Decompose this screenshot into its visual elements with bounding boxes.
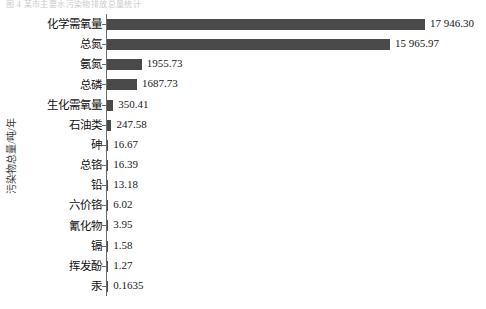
category-label: 氰化物 [10, 218, 102, 234]
axis-tick [102, 205, 106, 206]
axis-tick [102, 185, 106, 186]
axis-tick [102, 225, 106, 226]
bar [107, 59, 142, 70]
axis-tick [102, 145, 106, 146]
bar-chart: 图 4 某市主要水污染物排放总量统计 污染物总量/吨/年 化学需氧量总氮氨氮总磷… [0, 0, 486, 309]
bar-value-label: 247.58 [116, 117, 146, 132]
bar [107, 39, 390, 50]
bar-value-label: 16.39 [113, 157, 138, 172]
axis-tick [102, 44, 106, 45]
bar [107, 281, 108, 292]
bar-value-label: 350.41 [118, 97, 148, 112]
bar-row: 247.58 [106, 115, 486, 137]
category-label: 总铬 [10, 157, 102, 173]
plot-area: 17 946.3015 965.971955.731687.73350.4124… [106, 14, 486, 296]
axis-tick [102, 246, 106, 247]
category-label-list: 化学需氧量总氮氨氮总磷生化需氧量石油类砷总铬铅六价铬氰化物镉挥发酚汞 [8, 14, 102, 296]
bar [107, 120, 111, 131]
bar [107, 160, 108, 171]
bar-value-label: 6.02 [113, 197, 132, 212]
bar-value-label: 15 965.97 [395, 36, 439, 51]
bar-row: 13.18 [106, 175, 486, 197]
axis-tick [102, 84, 106, 85]
bar-value-label: 16.67 [113, 137, 138, 152]
bar-row: 0.1635 [106, 276, 486, 298]
bar [107, 261, 108, 272]
category-label: 砷 [10, 137, 102, 153]
axis-tick [102, 125, 106, 126]
category-label: 六价铬 [10, 197, 102, 213]
bar [107, 100, 113, 111]
bar-value-label: 1.58 [113, 238, 132, 253]
category-label: 总氮 [10, 36, 102, 52]
bar-row: 1.27 [106, 256, 486, 278]
bar-value-label: 0.1635 [113, 278, 143, 293]
bar-row: 1955.73 [106, 54, 486, 76]
bar-row: 16.39 [106, 155, 486, 177]
bar [107, 220, 108, 231]
category-label: 生化需氧量 [10, 97, 102, 113]
category-label: 总磷 [10, 77, 102, 93]
bar-row: 6.02 [106, 195, 486, 217]
bar-value-label: 1.27 [113, 258, 132, 273]
bar [107, 19, 425, 30]
chart-caption: 图 4 某市主要水污染物排放总量统计 [6, 0, 246, 9]
bar-row: 17 946.30 [106, 14, 486, 36]
category-label: 镉 [10, 238, 102, 254]
bar [107, 140, 108, 151]
axis-tick [102, 286, 106, 287]
category-label: 化学需氧量 [10, 16, 102, 32]
axis-tick [102, 64, 106, 65]
axis-tick [102, 266, 106, 267]
category-label: 汞 [10, 278, 102, 294]
axis-tick [102, 105, 106, 106]
bar-row: 3.95 [106, 215, 486, 237]
bar [107, 200, 108, 211]
axis-tick [102, 165, 106, 166]
bar-row: 1687.73 [106, 74, 486, 96]
bar-value-label: 1955.73 [147, 56, 183, 71]
bar [107, 241, 108, 252]
category-label: 铅 [10, 177, 102, 193]
bar-row: 16.67 [106, 135, 486, 157]
category-label: 氨氮 [10, 56, 102, 72]
bar-value-label: 3.95 [113, 217, 132, 232]
bar [107, 180, 108, 191]
bar-row: 350.41 [106, 95, 486, 117]
bar-row: 1.58 [106, 236, 486, 258]
bar-row: 15 965.97 [106, 34, 486, 56]
bar-value-label: 1687.73 [142, 76, 178, 91]
axis-tick [102, 24, 106, 25]
category-label: 挥发酚 [10, 258, 102, 274]
bar [107, 79, 137, 90]
category-label: 石油类 [10, 117, 102, 133]
bar-value-label: 13.18 [113, 177, 138, 192]
bar-value-label: 17 946.30 [430, 16, 474, 31]
